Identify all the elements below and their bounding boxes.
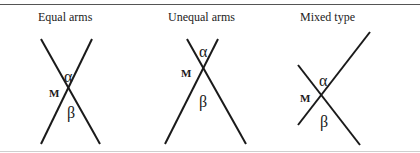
vertex-m-label: M [181, 67, 192, 79]
beta-label: β [199, 93, 207, 111]
arms-diagram: α M β α M β α M β [0, 0, 420, 153]
alpha-label: α [319, 72, 328, 89]
panel-unequal-arms: α M β [165, 39, 246, 144]
vertex-m-label: M [300, 92, 311, 104]
panel-equal-arms: α M β [41, 39, 100, 144]
alpha-label: α [199, 43, 208, 60]
arm-line [165, 39, 218, 144]
beta-label: β [320, 113, 328, 131]
arm-line [187, 39, 246, 144]
arm-line [298, 65, 360, 145]
beta-label: β [67, 104, 75, 122]
alpha-label: α [64, 68, 73, 85]
vertex-m-label: M [49, 87, 60, 99]
panel-mixed-type: α M β [298, 32, 370, 145]
